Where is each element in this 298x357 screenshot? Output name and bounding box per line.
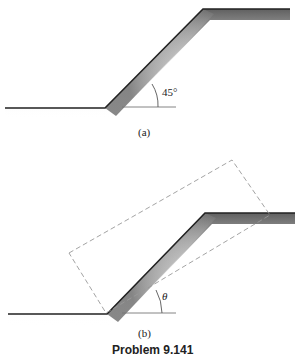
- panel-b-caption: (b): [138, 327, 151, 339]
- angle-label-45: 45°: [162, 86, 177, 98]
- figure-caption: Problem 9.141: [112, 343, 193, 357]
- panel-a-caption: (a): [138, 126, 150, 138]
- dashed-block-outline: [69, 160, 270, 313]
- slope-profile-b: [8, 213, 295, 326]
- angle-label-theta: θ: [162, 290, 167, 302]
- slope-profile-a: [5, 9, 290, 120]
